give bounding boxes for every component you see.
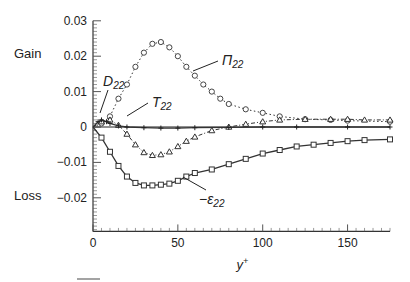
marker-circle <box>184 64 189 69</box>
marker-square <box>107 149 112 154</box>
label-t22: T22 <box>152 94 172 112</box>
marker-square <box>150 183 155 188</box>
marker-circle <box>133 64 138 69</box>
leader-line <box>183 177 206 190</box>
x-tick-label: 150 <box>338 236 358 250</box>
series-line-0 <box>93 42 390 127</box>
marker-square <box>294 144 299 149</box>
marker-square <box>277 148 282 153</box>
marker-square <box>99 135 104 140</box>
marker-triangle <box>209 128 215 133</box>
marker-triangle <box>158 152 164 157</box>
marker-square <box>388 137 393 142</box>
marker-square <box>243 156 248 161</box>
marker-square <box>362 138 367 143</box>
leader-line <box>100 90 108 113</box>
marker-triangle <box>175 143 181 148</box>
y-tick-label: 0.02 <box>64 49 88 63</box>
marker-circle <box>167 45 172 50</box>
y-tick-label: 0.03 <box>64 14 88 28</box>
marker-square <box>133 180 138 185</box>
marker-square <box>209 167 214 172</box>
marker-square <box>116 163 121 168</box>
marker-circle <box>260 110 265 115</box>
marker-circle <box>124 82 129 87</box>
marker-circle <box>158 39 163 44</box>
chart-canvas: 0.030.020.010−0.01−0.02050100150y+Π22T22… <box>0 0 410 282</box>
marker-square <box>260 151 265 156</box>
marker-triangle <box>260 119 266 124</box>
gain-label: Gain <box>14 46 41 61</box>
label-d22: D22 <box>103 73 125 91</box>
marker-square <box>226 162 231 167</box>
x-tick-label: 100 <box>253 236 273 250</box>
loss-label: Loss <box>14 188 41 203</box>
y-tick-label: −0.01 <box>57 155 88 169</box>
series-line-1 <box>93 127 390 185</box>
marker-triangle <box>243 121 249 126</box>
marker-square <box>192 171 197 176</box>
x-tick-label: 50 <box>171 236 185 250</box>
marker-triangle <box>166 149 172 154</box>
marker-circle <box>226 101 231 106</box>
marker-circle <box>116 96 121 101</box>
marker-square <box>124 174 129 179</box>
marker-square <box>167 181 172 186</box>
x-axis-label: y+ <box>235 256 248 272</box>
y-tick-label: −0.02 <box>57 191 88 205</box>
marker-circle <box>218 96 223 101</box>
marker-square <box>311 142 316 147</box>
marker-circle <box>201 82 206 87</box>
marker-circle <box>192 73 197 78</box>
x-tick-label: 0 <box>90 236 97 250</box>
series-line-2 <box>93 119 390 155</box>
marker-square <box>175 178 180 183</box>
marker-triangle <box>183 138 189 143</box>
marker-square <box>158 182 163 187</box>
marker-triangle <box>192 134 198 139</box>
label-pi22: Π22 <box>222 52 244 70</box>
marker-circle <box>175 54 180 59</box>
marker-circle <box>243 107 248 112</box>
y-tick-label: 0 <box>80 120 87 134</box>
label-eps22: −ε22 <box>199 191 225 209</box>
y-tick-label: 0.01 <box>64 85 88 99</box>
marker-square <box>345 139 350 144</box>
marker-square <box>141 183 146 188</box>
marker-circle <box>209 89 214 94</box>
leader-line <box>193 61 218 71</box>
marker-square <box>328 140 333 145</box>
leader-line <box>127 103 148 116</box>
marker-circle <box>150 41 155 46</box>
marker-circle <box>141 50 146 55</box>
